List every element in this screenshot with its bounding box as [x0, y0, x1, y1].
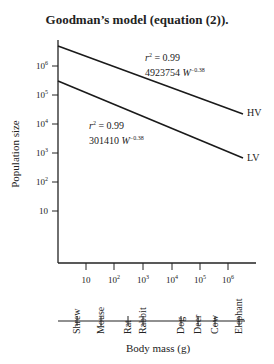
animal-label-mouse: Mouse — [95, 307, 106, 334]
lv-annotation: r2 = 0.99 301410 W−0.38 — [89, 117, 144, 148]
animal-label-deer: Deer — [192, 315, 203, 334]
x-tick-label: 102 — [102, 274, 126, 285]
animal-label-dog: Dog — [175, 317, 186, 334]
animal-label-rat: Rat — [122, 320, 133, 334]
animal-label-cow: Cow — [209, 315, 220, 334]
animal-label-shrew: Shrew — [71, 308, 82, 334]
lv-end-label: LV — [247, 152, 259, 163]
x-ticks — [86, 263, 228, 270]
animal-label-rabbit: Rabbit — [137, 307, 148, 334]
animal-label-elephant: Elephant — [233, 298, 244, 334]
y-tick-label: 102 — [18, 176, 48, 187]
lv-line — [58, 81, 243, 158]
x-tick-label: 105 — [188, 274, 212, 285]
y-axis-label: Population size — [9, 109, 21, 199]
y-tick-label: 105 — [18, 89, 48, 100]
y-tick-label: 104 — [18, 118, 48, 129]
x-tick-label: 10 — [74, 274, 98, 285]
x-axis-label: Body mass (g) — [58, 342, 258, 354]
x-tick-label: 104 — [160, 274, 184, 285]
y-tick-label: 10 — [18, 205, 48, 216]
y-tick-label: 106 — [18, 60, 48, 71]
y-ticks — [52, 66, 58, 211]
y-tick-label: 103 — [18, 147, 48, 158]
x-tick-label: 103 — [131, 274, 155, 285]
x-tick-label: 106 — [216, 274, 240, 285]
hv-annotation: r2 = 0.99 4923754 W−0.38 — [145, 49, 205, 80]
hv-end-label: HV — [247, 107, 261, 118]
